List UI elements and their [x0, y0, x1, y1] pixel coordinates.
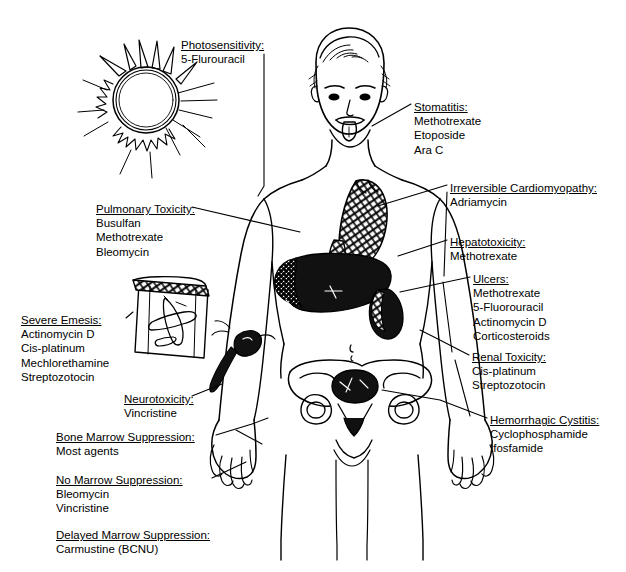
diagram-canvas: Photosensitivity: 5-Flurouracil Stomatit… [0, 0, 626, 572]
label-irreversible-cardiomyopathy: Irreversible Cardiomyopathy: Adriamycin [450, 181, 597, 209]
label-heading: Irreversible Cardiomyopathy: [450, 181, 597, 195]
label-drug: Streptozotocin [21, 370, 109, 384]
label-drug: Busulfan [96, 216, 195, 230]
label-drug: Carmustine (BCNU) [56, 542, 210, 556]
label-drug: Actinomycin D [473, 315, 550, 329]
label-hepatotoxicity: Hepatotoxicity: Methotrexate [450, 235, 525, 263]
label-drug: Methotrexate [414, 114, 481, 128]
pelvis-bones [288, 360, 431, 458]
label-heading: Bone Marrow Suppression: [56, 430, 195, 444]
label-drug: Most agents [56, 444, 195, 458]
label-heading: Hepatotoxicity: [450, 235, 525, 249]
label-drug: Cis-platinum [21, 341, 109, 355]
label-drug: Cis-platinum [472, 364, 546, 378]
label-drug: Mechlorethamine [21, 356, 109, 370]
label-delayed-marrow-suppression: Delayed Marrow Suppression: Carmustine (… [56, 528, 210, 556]
label-drug: Bleomycin [96, 245, 195, 259]
label-photosensitivity: Photosensitivity: 5-Flurouracil [181, 38, 264, 66]
head-with-tongue-out [302, 28, 402, 180]
label-heading: Neurotoxicity: [124, 392, 194, 406]
label-stomatitis: Stomatitis: Methotrexate Etoposide Ara C [414, 100, 481, 157]
label-heading: Stomatitis: [414, 100, 481, 114]
label-severe-emesis: Severe Emesis: Actinomycin D Cis-platinu… [21, 313, 109, 384]
label-heading: Severe Emesis: [21, 313, 109, 327]
label-heading: Photosensitivity: [181, 38, 264, 52]
label-drug: Bleomycin [56, 487, 183, 501]
label-drug: Ifosfamide [490, 441, 599, 455]
label-drug: Streptozotocin [472, 378, 546, 392]
label-heading: Hemorrhagic Cystitis: [490, 413, 599, 427]
label-no-marrow-suppression: No Marrow Suppression: Bleomycin Vincris… [56, 473, 183, 516]
label-ulcers: Ulcers: Methotrexate 5-Fluorouracil Acti… [473, 272, 550, 343]
label-drug: 5-Fluorouracil [473, 300, 550, 314]
label-drug: Adriamycin [450, 195, 597, 209]
label-drug: Etoposide [414, 128, 481, 142]
label-heading: No Marrow Suppression: [56, 473, 183, 487]
airsickness-bag-with-airplane [133, 277, 209, 358]
label-drug: Cyclophosphamide [490, 427, 599, 441]
label-heading: Delayed Marrow Suppression: [56, 528, 210, 542]
label-heading: Ulcers: [473, 272, 550, 286]
label-drug: 5-Flurouracil [181, 52, 264, 66]
label-bone-marrow-suppression: Bone Marrow Suppression: Most agents [56, 430, 195, 458]
stippled-stomach [369, 289, 403, 339]
label-drug: Ara C [414, 143, 481, 157]
label-renal-toxicity: Renal Toxicity: Cis-platinum Streptozoto… [472, 350, 546, 393]
label-heading: Pulmonary Toxicity: [96, 202, 195, 216]
label-drug: Corticosteroids [473, 329, 550, 343]
label-neurotoxicity: Neurotoxicity: Vincristine [124, 392, 194, 420]
label-drug: Vincristine [124, 406, 194, 420]
label-drug: Methotrexate [96, 230, 195, 244]
label-pulmonary-toxicity: Pulmonary Toxicity: Busulfan Methotrexat… [96, 202, 195, 259]
label-hemorrhagic-cystitis: Hemorrhagic Cystitis: Cyclophosphamide I… [490, 413, 599, 456]
label-drug: Methotrexate [473, 286, 550, 300]
label-drug: Vincristine [56, 501, 183, 515]
label-drug: Actinomycin D [21, 327, 109, 341]
label-drug: Methotrexate [450, 249, 525, 263]
label-heading: Renal Toxicity: [472, 350, 546, 364]
right-hand [448, 420, 494, 489]
